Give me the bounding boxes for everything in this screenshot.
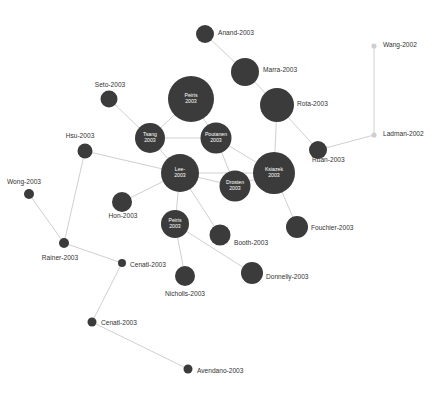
node-label-booth: Booth-2003 — [234, 239, 268, 246]
node-label-nicholls: Nicholls-2003 — [165, 290, 205, 297]
graph-edge — [92, 322, 188, 369]
graph-edge — [29, 194, 64, 243]
graph-node-seto[interactable] — [101, 91, 118, 108]
graph-node-wang[interactable] — [371, 43, 376, 48]
graph-node-ladman[interactable] — [371, 132, 376, 137]
label-layer: Anand-2003Marra-2003Wang-2002Ladman-2002… — [7, 29, 424, 374]
node-label-ruan: Ruan-2003 — [312, 156, 345, 163]
network-graph-svg: Anand-2003Marra-2003Wang-2002Ladman-2002… — [0, 0, 447, 394]
node-label-avendano: Avendano-2003 — [197, 367, 244, 374]
node-label-rainer: Rainer-2003 — [42, 254, 79, 261]
node-label-ladman: Ladman-2002 — [383, 130, 424, 137]
graph-node-rota[interactable] — [260, 88, 294, 122]
graph-node-fouchier[interactable] — [286, 216, 308, 238]
graph-node-cenatl_1[interactable] — [118, 259, 126, 267]
graph-edge — [64, 151, 85, 243]
node-label-seto: Seto-2003 — [95, 81, 126, 88]
graph-node-wong[interactable] — [24, 189, 34, 199]
node-label-peiris_bot: Peiris2003 — [169, 217, 182, 229]
node-label-wang: Wang-2002 — [383, 41, 417, 49]
network-graph-canvas: Anand-2003Marra-2003Wang-2002Ladman-2002… — [0, 0, 447, 394]
node-label-cenatl_1: Cenatl-2003 — [130, 261, 166, 268]
graph-node-marra[interactable] — [231, 58, 259, 86]
node-label-tsang: Tsang2003 — [143, 131, 157, 143]
graph-node-avendano[interactable] — [184, 365, 193, 374]
node-label-peiris_top: Peiris2003 — [185, 92, 198, 104]
node-label-hsu: Hsu-2003 — [66, 132, 95, 139]
node-label-hon: Hon-2003 — [109, 212, 138, 219]
graph-node-nicholls[interactable] — [175, 266, 195, 286]
graph-node-hsu[interactable] — [78, 144, 93, 159]
graph-node-anand[interactable] — [196, 25, 214, 43]
node-label-anand: Anand-2003 — [218, 29, 254, 36]
graph-node-cenatl_2[interactable] — [88, 318, 97, 327]
node-label-fouchier: Fouchier-2003 — [311, 224, 354, 231]
node-label-marra: Marra-2003 — [263, 66, 297, 73]
node-label-lee: Lee-2003 — [174, 166, 186, 178]
node-layer — [24, 25, 377, 374]
node-label-rota: Rota-2003 — [297, 100, 328, 107]
graph-edge — [92, 263, 122, 322]
graph-node-hon[interactable] — [112, 192, 132, 212]
graph-node-rainer[interactable] — [59, 238, 69, 248]
node-label-cenatl_2: Cenatl-2003 — [101, 319, 137, 326]
graph-node-donnelly[interactable] — [241, 262, 263, 284]
node-label-donnelly: Donnelly-2003 — [266, 273, 309, 281]
node-label-wong: Wong-2003 — [7, 178, 41, 186]
graph-node-booth[interactable] — [210, 225, 231, 246]
